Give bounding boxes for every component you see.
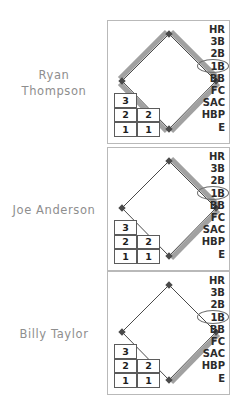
outcome-label: 1B [210, 61, 225, 72]
outcome-label: 1B [210, 312, 225, 323]
player-name: Billy Taylor [2, 271, 106, 397]
outcome-label: HR [209, 24, 225, 35]
player-name: RyanThompson [2, 20, 106, 146]
ball-count-cell[interactable]: 3 [114, 93, 137, 108]
strike-count-cell[interactable]: 2 [137, 235, 160, 250]
pitch-count-grid: 32121 [114, 344, 163, 391]
ball-count-cell[interactable]: 1 [114, 249, 137, 264]
outcome-label: SAC [203, 348, 225, 359]
at-bat-row: RyanThompsonHR3B2B1BBBFCSACHBPE32121 [0, 20, 244, 146]
outcome-label: FC [211, 85, 225, 96]
outcome-label: BB [210, 324, 225, 335]
outcome-option-2b[interactable]: 2B [179, 299, 225, 311]
at-bat-panel[interactable]: HR3B2B1BBBFCSACHBPE32121 [107, 271, 230, 395]
strike-count-cell[interactable]: 2 [137, 108, 160, 123]
outcome-label: E [218, 249, 225, 260]
outcome-option-sac[interactable]: SAC [179, 97, 225, 109]
ball-count-cell[interactable]: 1 [114, 373, 137, 388]
at-bat-panel[interactable]: HR3B2B1BBBFCSACHBPE32121 [107, 20, 230, 144]
outcome-option-1b[interactable]: 1B [179, 312, 225, 324]
outcome-option-bb[interactable]: BB [179, 324, 225, 336]
outcome-option-hbp[interactable]: HBP [179, 109, 225, 121]
at-bat-panel[interactable]: HR3B2B1BBBFCSACHBPE32121 [107, 147, 230, 271]
player-name-line-2: Thompson [22, 83, 87, 99]
outcome-label: 3B [210, 36, 225, 47]
outcome-option-fc[interactable]: FC [179, 85, 225, 97]
outcome-option-hbp[interactable]: HBP [179, 236, 225, 248]
outcome-label: SAC [203, 224, 225, 235]
outcome-option-1b[interactable]: 1B [179, 61, 225, 73]
outcome-option-e[interactable]: E [179, 249, 225, 261]
outcome-list: HR3B2B1BBBFCSACHBPE [179, 275, 225, 385]
outcome-option-hr[interactable]: HR [179, 275, 225, 287]
path-highlight-second-to-third [120, 32, 167, 79]
outcome-label: 3B [210, 163, 225, 174]
outcome-list: HR3B2B1BBBFCSACHBPE [179, 151, 225, 261]
outcome-option-sac[interactable]: SAC [179, 348, 225, 360]
ball-count-cell[interactable]: 2 [114, 108, 137, 123]
outcome-option-3b[interactable]: 3B [179, 163, 225, 175]
outcome-label: E [218, 122, 225, 133]
outcome-label: BB [210, 73, 225, 84]
outcome-list: HR3B2B1BBBFCSACHBPE [179, 24, 225, 134]
outcome-option-bb[interactable]: BB [179, 73, 225, 85]
pitch-count-grid: 32121 [114, 220, 163, 267]
outcome-label: FC [211, 212, 225, 223]
outcome-label: 3B [210, 287, 225, 298]
ball-count-cell[interactable]: 3 [114, 220, 137, 235]
outcome-option-fc[interactable]: FC [179, 336, 225, 348]
ball-count-cell[interactable]: 2 [114, 359, 137, 374]
outcome-label: BB [210, 200, 225, 211]
outcome-label: HR [209, 275, 225, 286]
outcome-option-sac[interactable]: SAC [179, 224, 225, 236]
scorecard: RyanThompsonHR3B2B1BBBFCSACHBPE32121Joe … [0, 0, 244, 401]
ball-count-cell[interactable]: 3 [114, 344, 137, 359]
strike-count-cell[interactable]: 1 [137, 122, 160, 137]
outcome-label: 1B [210, 188, 225, 199]
at-bat-row: Billy TaylorHR3B2B1BBBFCSACHBPE32121 [0, 271, 244, 397]
strike-count-cell[interactable]: 1 [137, 249, 160, 264]
outcome-option-hr[interactable]: HR [179, 24, 225, 36]
outcome-label: HR [209, 151, 225, 162]
outcome-option-e[interactable]: E [179, 122, 225, 134]
outcome-option-2b[interactable]: 2B [179, 175, 225, 187]
player-name-line-1: Ryan [22, 67, 87, 83]
strike-count-cell[interactable]: 1 [137, 373, 160, 388]
player-name: Joe Anderson [2, 147, 106, 273]
outcome-option-3b[interactable]: 3B [179, 36, 225, 48]
outcome-label: 2B [210, 48, 225, 59]
outcome-label: HBP [202, 236, 225, 247]
outcome-label: 2B [210, 299, 225, 310]
outcome-option-1b[interactable]: 1B [179, 188, 225, 200]
outcome-label: E [218, 373, 225, 384]
at-bat-row: Joe AndersonHR3B2B1BBBFCSACHBPE32121 [0, 147, 244, 273]
pitch-count-grid: 32121 [114, 93, 163, 140]
ball-count-cell[interactable]: 1 [114, 122, 137, 137]
outcome-label: SAC [203, 97, 225, 108]
strike-count-cell[interactable]: 2 [137, 359, 160, 374]
outcome-option-bb[interactable]: BB [179, 200, 225, 212]
outcome-option-2b[interactable]: 2B [179, 48, 225, 60]
outcome-option-3b[interactable]: 3B [179, 287, 225, 299]
player-name-line-1: Joe Anderson [13, 202, 96, 218]
outcome-option-hr[interactable]: HR [179, 151, 225, 163]
outcome-option-hbp[interactable]: HBP [179, 360, 225, 372]
outcome-option-e[interactable]: E [179, 373, 225, 385]
player-name-line-1: Billy Taylor [19, 326, 88, 342]
outcome-option-fc[interactable]: FC [179, 212, 225, 224]
ball-count-cell[interactable]: 2 [114, 235, 137, 250]
outcome-label: HBP [202, 109, 225, 120]
outcome-label: HBP [202, 360, 225, 371]
outcome-label: FC [211, 336, 225, 347]
outcome-label: 2B [210, 175, 225, 186]
